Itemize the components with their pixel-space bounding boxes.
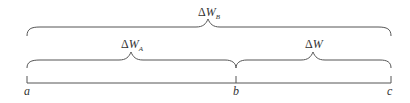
brace-right — [236, 52, 391, 68]
point-a-label: a — [24, 84, 30, 98]
brace-left — [27, 52, 236, 68]
label-delta-wa: ΔWA — [121, 37, 144, 53]
point-b-label: b — [233, 84, 239, 98]
label-delta-wb: ΔWB — [198, 5, 221, 21]
point-c-label: c — [387, 84, 393, 98]
brace-total — [27, 19, 391, 36]
label-delta-w: ΔW — [305, 37, 324, 51]
brace-diagram: ΔWB ΔWA ΔW a b c — [0, 0, 410, 103]
